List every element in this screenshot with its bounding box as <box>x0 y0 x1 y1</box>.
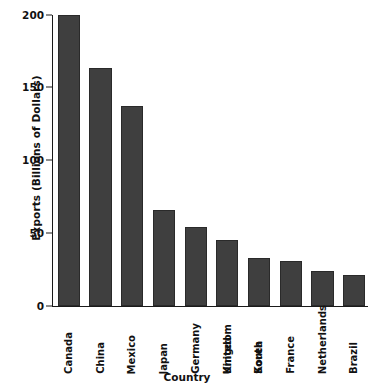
x-tick-slot: Canada <box>53 312 85 374</box>
x-axis-title: Country <box>0 371 374 383</box>
y-tick-label: 150 <box>0 81 44 93</box>
x-tick-label: China <box>95 342 107 374</box>
bar-canada <box>58 15 80 307</box>
x-tick-slot: SouthKorea <box>243 312 275 374</box>
y-tick-label: 100 <box>0 154 44 166</box>
bar-mexico <box>121 106 143 306</box>
y-tick-mark <box>46 233 52 234</box>
y-tick-mark <box>46 14 52 15</box>
y-tick-label: 0 <box>0 300 44 312</box>
bar-south-korea <box>248 258 270 306</box>
x-axis-tick-labels: CanadaChinaMexicoJapanGermanyUnitedKingd… <box>53 312 374 374</box>
bar-germany <box>185 227 207 306</box>
y-tick-label: 50 <box>0 227 44 239</box>
x-tick-label: Korea <box>253 341 265 374</box>
x-tick-label: Netherlands <box>317 305 329 374</box>
x-tick-slot: Japan <box>148 312 180 374</box>
x-tick-label: Mexico <box>126 335 138 374</box>
x-tick-slot: Germany <box>180 312 212 374</box>
y-axis-tick-labels: 050100150200 <box>0 0 44 389</box>
bar-japan <box>153 210 175 306</box>
x-tick-slot: Netherlands <box>307 312 339 374</box>
x-tick-slot: China <box>85 312 117 374</box>
bar-netherlands <box>311 271 333 306</box>
bar-france <box>280 261 302 306</box>
x-tick-label: Germany <box>190 323 202 374</box>
y-tick-mark <box>46 87 52 88</box>
x-tick-label: Canada <box>63 332 75 374</box>
x-tick-slot: France <box>275 312 307 374</box>
x-tick-slot: UnitedKingdom <box>212 312 244 374</box>
bar-brazil <box>343 275 365 306</box>
y-tick-mark <box>46 160 52 161</box>
x-tick-slot: Brazil <box>338 312 370 374</box>
x-tick-label: France <box>285 336 297 374</box>
x-tick-label: Brazil <box>348 342 360 374</box>
y-tick-mark <box>46 306 52 307</box>
x-tick-label: Kingdom <box>222 324 234 374</box>
x-tick-label: Japan <box>158 343 170 375</box>
y-tick-label: 200 <box>0 9 44 21</box>
bar-united-kingdom <box>216 240 238 306</box>
bar-china <box>89 68 111 306</box>
bar-chart: Exports (Billions of Dollars) 0501001502… <box>0 0 374 389</box>
x-tick-slot: Mexico <box>116 312 148 374</box>
